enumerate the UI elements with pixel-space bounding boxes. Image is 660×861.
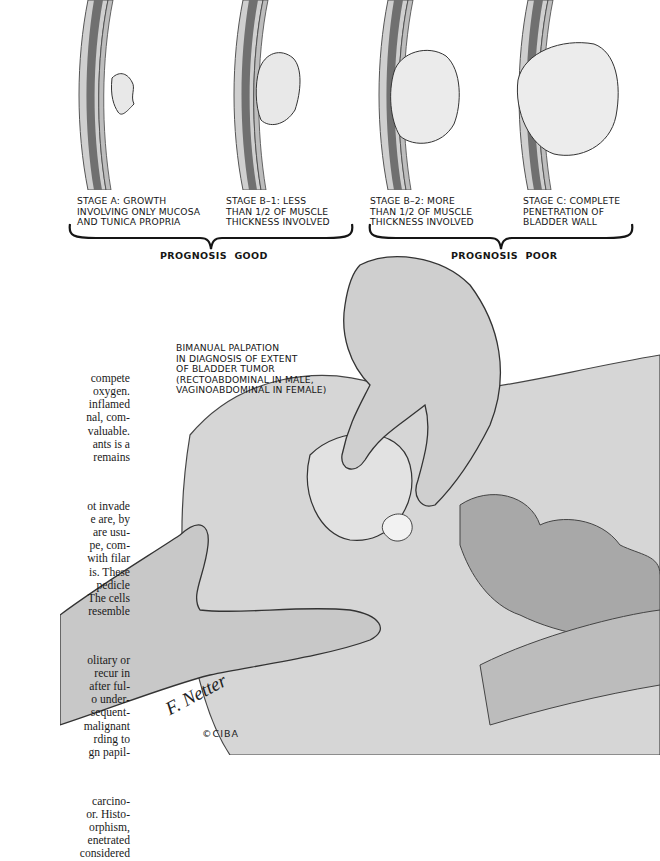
stage-c-illustration <box>510 0 640 190</box>
body-paragraph: ot invade e are, by are usu- pe, com- wi… <box>0 500 130 618</box>
brace-poor <box>366 222 636 252</box>
stage-b2-illustration <box>370 0 480 190</box>
copyright-label: ©CIBA <box>202 728 239 739</box>
bimanual-palpation-illustration <box>60 255 660 755</box>
body-text-column: compete oxygen. inflamed nal, com- valua… <box>0 346 130 861</box>
body-paragraph: carcino- or. Histo- orphism, enetrated c… <box>0 795 130 860</box>
stage-a-illustration <box>70 0 160 190</box>
brace-good <box>66 222 356 252</box>
body-paragraph: compete oxygen. inflamed nal, com- valua… <box>0 372 130 464</box>
stage-b1-illustration <box>225 0 315 190</box>
body-paragraph: olitary or recur in after ful- o under- … <box>0 654 130 759</box>
palpation-label: BIMANUAL PALPATION IN DIAGNOSIS OF EXTEN… <box>176 343 327 396</box>
